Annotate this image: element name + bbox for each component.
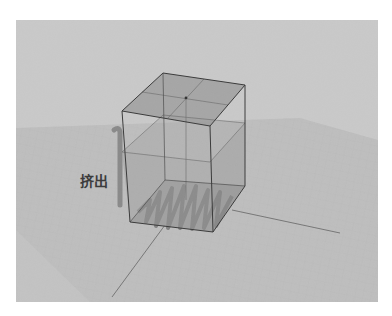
3d-viewport-scene	[0, 0, 392, 316]
extrude-label: 挤出	[80, 170, 108, 190]
